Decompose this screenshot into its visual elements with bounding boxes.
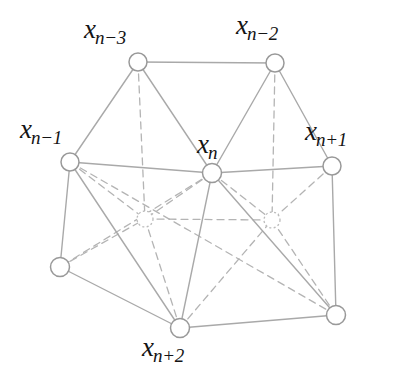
node-label-xn1-subscript: n−1 <box>31 127 62 148</box>
solid-edge-xn3-xn1 <box>70 62 138 162</box>
dashed-edge-xn-bl <box>60 173 212 267</box>
dashed-edge-xnp2-hidden1 <box>145 219 180 328</box>
solid-edge-xn2-xn <box>212 63 275 173</box>
node-label-xnp1: xn+1 <box>305 118 348 145</box>
dashed-edge-xn-hidden2 <box>212 173 272 220</box>
node-label-xnp2: xn+2 <box>142 334 185 361</box>
dashed-edge-xn3-hidden1 <box>138 62 145 219</box>
node-label-xnp2-subscript: n+2 <box>153 345 184 366</box>
node-label-xnp1-subscript: n+1 <box>316 129 347 150</box>
solid-edge-group <box>60 62 336 328</box>
solid-edge-xn2-xnp1 <box>275 63 332 166</box>
solid-edge-xnp2-br <box>180 315 336 328</box>
solid-edge-xn3-xn2 <box>138 62 275 63</box>
node-label-xn-subscript: n <box>208 142 217 163</box>
hidden-node-1[interactable] <box>137 211 153 227</box>
node-label-xn2: xn−2 <box>236 12 279 39</box>
node-xnp1[interactable] <box>323 157 341 175</box>
hidden-node-2[interactable] <box>264 212 280 228</box>
solid-edge-xn1-xn <box>70 162 212 173</box>
dashed-edge-xnp1-hidden2 <box>272 166 332 220</box>
solid-edge-xnp1-br <box>332 166 336 315</box>
node-label-xn2-subscript: n−2 <box>247 23 278 44</box>
solid-edge-xn-xnp2 <box>180 173 212 328</box>
dashed-edge-br-hidden2 <box>272 220 336 315</box>
dashed-edge-xnp2-hidden2 <box>180 220 272 328</box>
solid-edge-xn-br <box>212 173 336 315</box>
lattice-graph-canvas <box>0 0 411 382</box>
node-xn[interactable] <box>203 164 222 183</box>
node-bottom-left[interactable] <box>51 258 70 277</box>
solid-edge-xn1-bl <box>60 162 70 267</box>
dashed-edge-xn1-hidden1 <box>70 162 145 219</box>
node-label-xn: xn <box>197 131 218 158</box>
node-xn3[interactable] <box>129 53 147 71</box>
dashed-edge-bl-hidden1 <box>60 219 145 267</box>
dashed-edge-xn2-hidden2 <box>272 63 275 220</box>
node-label-xn3: xn−3 <box>84 16 127 43</box>
solid-edge-bl-xnp2 <box>60 267 180 328</box>
node-label-xn3-subscript: n−3 <box>95 27 126 48</box>
node-label-xn1: xn−1 <box>20 116 63 143</box>
node-xn2[interactable] <box>266 54 284 72</box>
solid-edge-xn1-xnp2 <box>70 162 180 328</box>
node-xn1[interactable] <box>61 153 79 171</box>
solid-edge-xn-xnp1 <box>212 166 332 173</box>
lattice-diagram: xn−3 xn−2 xn−1 xn xn+1 xn+2 <box>0 0 411 382</box>
node-bottom-right[interactable] <box>327 306 346 325</box>
